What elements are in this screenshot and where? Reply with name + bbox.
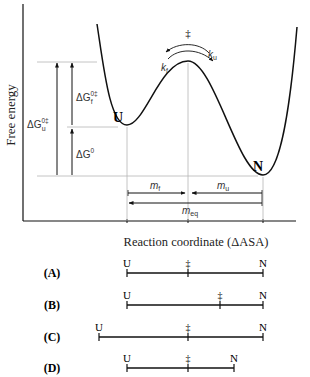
m-f-sub: f (158, 185, 160, 192)
panel-b-u-label: U (123, 289, 131, 301)
kf-arrow (166, 45, 209, 53)
guide-lines (37, 62, 263, 221)
state-n-label: N (253, 159, 263, 174)
panel-b-n-label: N (259, 289, 267, 301)
dG-u-sub: u (42, 125, 46, 132)
ku-sub: u (213, 54, 217, 61)
panel-b-label: (B) (44, 298, 60, 312)
dG-f-sup: 0‡ (90, 90, 98, 97)
m-u-sub: u (225, 185, 229, 192)
panel-a-ts-label: ‡ (186, 258, 191, 269)
dG0-sup: 0 (90, 147, 94, 154)
m-u-label: mu (217, 180, 229, 192)
m-f-base: m (150, 180, 158, 191)
m-f-label: mf (150, 180, 160, 192)
dG0-base: ΔG (76, 149, 91, 160)
m-eq-sub: eq (190, 210, 198, 218)
ku-label: ku (208, 49, 217, 61)
panel-c-n-label: N (259, 321, 267, 333)
panel-d-n-label: N (230, 352, 238, 364)
state-u-label: U (113, 110, 123, 125)
panel-a-n-label: N (259, 257, 267, 269)
dG-f-label: ΔG0‡f (76, 90, 98, 105)
m-eq-base: m (182, 205, 190, 216)
dG-u-base: ΔG (27, 119, 42, 130)
transition-state-position-panels: (A)U‡N(B)U‡N(C)U‡N(D)U‡N (44, 257, 267, 375)
panel-a-u-label: U (123, 257, 131, 269)
dG-f-base: ΔG (76, 92, 91, 103)
panel-d-label: (D) (44, 361, 61, 375)
dG0-label: ΔG0 (76, 147, 94, 160)
dG-u-label: ΔG0‡u (27, 117, 49, 132)
kf-sub: f (166, 67, 168, 74)
dG-u-sup: 0‡ (41, 117, 49, 124)
kf-label: kf (161, 62, 168, 74)
panel-d-ts-label: ‡ (186, 353, 191, 364)
m-eq-label: meq (182, 205, 198, 218)
panel-c-ts-label: ‡ (186, 322, 191, 333)
panel-b-ts-label: ‡ (218, 290, 223, 301)
x-axis-label: Reaction coordinate (ΔASA) (124, 235, 269, 249)
ku-arrow (168, 51, 213, 61)
m-u-base: m (217, 180, 225, 191)
panel-a-label: (A) (44, 266, 61, 280)
y-axis-label: Free energy (3, 84, 18, 146)
panel-c-label: (C) (44, 330, 61, 344)
panel-c-u-label: U (95, 321, 103, 333)
transition-state-label: ‡ (185, 27, 191, 39)
panel-d-u-label: U (123, 352, 131, 364)
dG-f-sub: f (91, 98, 93, 105)
diagram-canvas: Free energy Reaction coordinate (ΔASA) U… (0, 0, 310, 377)
